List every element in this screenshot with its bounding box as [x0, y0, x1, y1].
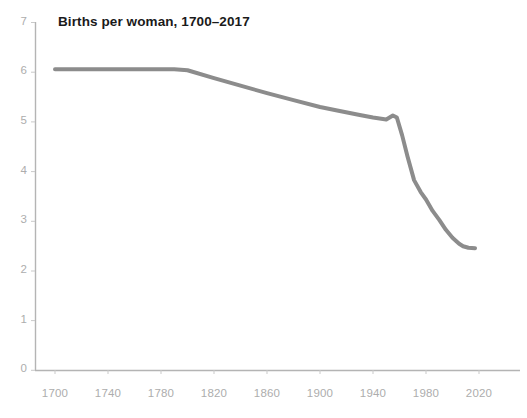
y-tick-label-7: 7: [5, 15, 27, 27]
y-tick-label-0: 0: [5, 362, 27, 374]
y-tick-label-1: 1: [5, 313, 27, 325]
y-tick-label-2: 2: [5, 263, 27, 275]
x-tick-label-1900: 1900: [298, 387, 342, 399]
x-tick-label-1940: 1940: [351, 387, 395, 399]
y-axis-tick-marks: [31, 23, 35, 371]
x-tick-label-1820: 1820: [192, 387, 236, 399]
x-tick-label-1700: 1700: [33, 387, 77, 399]
y-tick-label-3: 3: [5, 213, 27, 225]
y-tick-label-4: 4: [5, 164, 27, 176]
x-tick-label-2020: 2020: [457, 387, 501, 399]
y-tick-label-6: 6: [5, 64, 27, 76]
line-chart-plot: [0, 0, 527, 418]
x-tick-label-1860: 1860: [245, 387, 289, 399]
x-tick-label-1980: 1980: [404, 387, 448, 399]
chart-container: Births per woman, 1700–2017: [0, 0, 527, 418]
x-tick-label-1740: 1740: [86, 387, 130, 399]
y-tick-label-5: 5: [5, 114, 27, 126]
data-series-line-births-per-woman: [55, 69, 475, 248]
x-tick-label-1780: 1780: [139, 387, 183, 399]
